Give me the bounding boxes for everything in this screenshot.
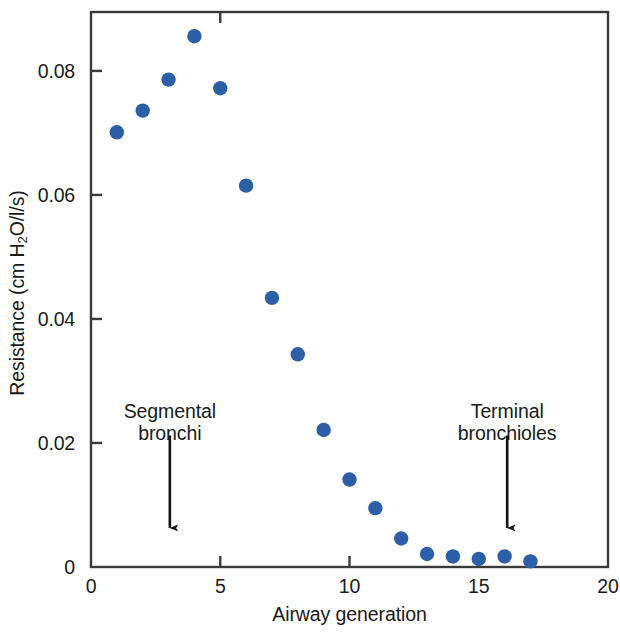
plot-area	[0, 0, 620, 638]
data-point-series	[110, 29, 538, 569]
x-axis-title: Airway generation	[91, 603, 608, 626]
data-point	[291, 347, 305, 361]
data-point	[342, 472, 356, 486]
data-point	[265, 291, 279, 305]
data-point	[472, 552, 486, 566]
y-axis-title-subscript: 2	[15, 236, 30, 243]
annotation-line-2: bronchioles	[458, 423, 557, 445]
data-point	[213, 81, 227, 95]
data-point	[316, 423, 330, 437]
y-axis-title: Resistance (cm H2O/l/s)	[2, 3, 32, 583]
y-tick-label-0: 0	[0, 556, 75, 579]
data-point	[420, 547, 434, 561]
resistance-vs-airway-generation-chart: Resistance (cm H2O/l/s) Airway generatio…	[0, 0, 620, 638]
annotation-terminal-bronchioles: Terminalbronchioles	[458, 401, 557, 445]
x-tick-label-2: 10	[339, 575, 360, 598]
y-tick-label-2: 0.04	[0, 307, 75, 330]
y-tick-label-1: 0.02	[0, 431, 75, 454]
data-point	[368, 501, 382, 515]
data-point	[110, 125, 124, 139]
axis-ticks	[91, 12, 479, 567]
annotation-arrows	[170, 436, 507, 528]
data-point	[394, 531, 408, 545]
x-tick-label-1: 5	[215, 575, 226, 598]
data-point	[523, 554, 537, 568]
data-point	[497, 549, 511, 563]
x-tick-label-4: 20	[597, 575, 618, 598]
data-point	[446, 549, 460, 563]
y-tick-label-3: 0.06	[0, 183, 75, 206]
data-point	[161, 72, 175, 86]
data-point	[136, 103, 150, 117]
annotation-line-1: Terminal	[458, 401, 557, 423]
annotation-line-2: bronchi	[124, 423, 216, 445]
x-tick-label-0: 0	[86, 575, 97, 598]
data-point	[239, 178, 253, 192]
annotation-segmental-bronchi: Segmentalbronchi	[124, 401, 216, 445]
y-tick-label-4: 0.08	[0, 59, 75, 82]
data-point	[187, 29, 201, 43]
x-tick-label-3: 15	[468, 575, 489, 598]
annotation-line-1: Segmental	[124, 401, 216, 423]
